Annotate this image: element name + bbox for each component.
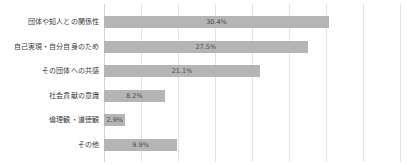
category-label: 団体や知人との関係性 bbox=[28, 19, 99, 26]
bar-row: 倫理観・道徳観2.9% bbox=[104, 108, 400, 132]
bar: 9.9% bbox=[104, 139, 177, 151]
bar-container: 27.5% bbox=[104, 41, 308, 53]
bar-container: 30.4% bbox=[104, 16, 329, 28]
bar-container: 9.9% bbox=[104, 139, 177, 151]
bar-row: 自己実現・自分自身のため27.5% bbox=[104, 35, 400, 59]
category-label: 自己実現・自分自身のため bbox=[14, 43, 99, 50]
bar: 27.5% bbox=[104, 41, 308, 53]
bar-value-label: 8.2% bbox=[126, 92, 143, 99]
category-label: その団体への共感 bbox=[42, 68, 99, 75]
bar-value-label: 30.4% bbox=[206, 19, 227, 26]
bar: 8.2% bbox=[104, 90, 165, 102]
bar: 2.9% bbox=[104, 114, 125, 126]
bar-container: 2.9% bbox=[104, 114, 125, 126]
category-label: その他 bbox=[78, 141, 99, 148]
bar-row: 社会貢献の意識8.2% bbox=[104, 84, 400, 108]
category-label: 倫理観・道徳観 bbox=[49, 117, 99, 124]
bar-value-label: 2.9% bbox=[106, 117, 123, 124]
bar-container: 8.2% bbox=[104, 90, 165, 102]
bar-container: 21.1% bbox=[104, 65, 260, 77]
bar-value-label: 27.5% bbox=[195, 43, 216, 50]
bar: 30.4% bbox=[104, 16, 329, 28]
bar-rows: 団体や知人との関係性30.4%自己実現・自分自身のため27.5%その団体への共感… bbox=[104, 4, 400, 162]
bar-row: 団体や知人との関係性30.4% bbox=[104, 10, 400, 34]
bar-chart: 団体や知人との関係性30.4%自己実現・自分自身のため27.5%その団体への共感… bbox=[0, 0, 407, 165]
bar-value-label: 21.1% bbox=[172, 68, 193, 75]
plot-area: 団体や知人との関係性30.4%自己実現・自分自身のため27.5%その団体への共感… bbox=[104, 4, 400, 162]
bar-row: その他9.9% bbox=[104, 133, 400, 157]
bar: 21.1% bbox=[104, 65, 260, 77]
bar-row: その団体への共感21.1% bbox=[104, 59, 400, 83]
gridline bbox=[400, 4, 401, 162]
bar-value-label: 9.9% bbox=[132, 141, 149, 148]
category-label: 社会貢献の意識 bbox=[49, 92, 99, 99]
